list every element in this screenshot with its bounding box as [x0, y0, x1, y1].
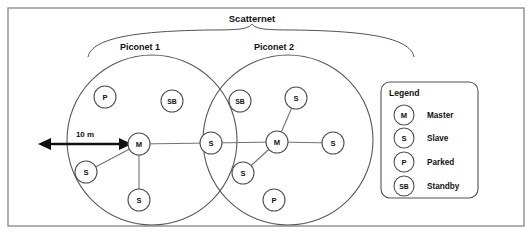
node-p2-parked[interactable]: P — [263, 189, 285, 211]
node-p1-parked[interactable]: P — [94, 86, 116, 108]
legend-slave-label: Slave — [427, 134, 449, 143]
node-p2-slave-top[interactable]: S — [285, 87, 307, 109]
node-p2-standby-label: SB — [235, 98, 245, 105]
legend-parked-code: P — [401, 158, 406, 167]
node-p2-parked-label: P — [271, 196, 276, 205]
node-p1-slave-left-label: S — [83, 168, 88, 177]
node-p1-standby-label: SB — [167, 98, 177, 105]
node-p2-master-label: M — [274, 138, 280, 147]
scatternet-title: Scatternet — [229, 13, 276, 24]
legend-parked-label: Parked — [427, 158, 454, 167]
node-p1-slave-left[interactable]: S — [75, 161, 97, 183]
node-p1-parked-label: P — [102, 93, 107, 102]
legend-standby-label: Standby — [427, 182, 460, 191]
node-p1-master[interactable]: M — [128, 133, 150, 155]
node-p2-slave-right[interactable]: S — [322, 132, 344, 154]
node-p1-slave-bottom-label: S — [136, 196, 141, 205]
node-p2-slave-lower-left[interactable]: S — [232, 162, 254, 184]
node-p2-slave-right-label: S — [330, 139, 335, 148]
node-p2-standby[interactable]: SB — [229, 90, 251, 112]
legend-master-code: M — [401, 111, 407, 120]
piconet-2-label: Piconet 2 — [254, 42, 294, 52]
node-bridge-slave-label: S — [208, 139, 213, 148]
legend: Legend M Master S Slave P Parked SB Stan… — [381, 82, 478, 198]
legend-standby-code: SB — [399, 183, 409, 190]
node-p1-slave-bottom[interactable]: S — [128, 189, 150, 211]
node-p2-slave-top-label: S — [293, 94, 298, 103]
scatternet-figure: Scatternet Piconet 1 Piconet 2 10 m P SB — [0, 0, 532, 234]
node-bridge-slave[interactable]: S — [200, 132, 222, 154]
node-p1-standby[interactable]: SB — [161, 90, 183, 112]
legend-title: Legend — [389, 88, 420, 98]
node-p1-master-label: M — [136, 140, 142, 149]
node-p2-master[interactable]: M — [266, 131, 288, 153]
legend-master-label: Master — [427, 111, 454, 120]
node-p2-slave-lower-left-label: S — [240, 169, 245, 178]
dimension-label: 10 m — [76, 130, 94, 139]
legend-slave-code: S — [401, 134, 406, 143]
piconet-1-label: Piconet 1 — [120, 42, 160, 52]
